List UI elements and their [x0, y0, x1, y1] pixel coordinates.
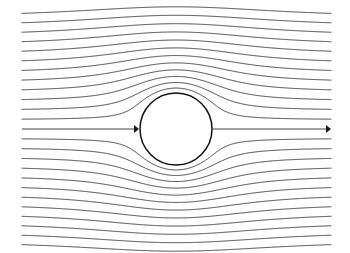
streamline-upper-5 [22, 63, 331, 80]
streamline-lower-4 [22, 168, 331, 188]
flow-diagram-figure [0, 0, 350, 253]
streamline-lower-5 [22, 178, 331, 195]
cylinder-outline [140, 93, 212, 165]
streamline-upper-7 [22, 48, 331, 61]
streamline-lower-12 [22, 245, 331, 252]
streamline-upper-4 [22, 70, 331, 90]
streamline-lower-10 [22, 226, 331, 235]
streamline-upper-10 [22, 24, 331, 33]
streamline-upper-8 [22, 40, 331, 51]
upstream-flow-arrow [22, 125, 139, 133]
streamline-lower-8 [22, 207, 331, 218]
downstream-flow-arrow [213, 125, 331, 133]
streamline-lower-7 [22, 197, 331, 210]
streamline-lower-11 [22, 235, 331, 243]
streamline-upper-11 [22, 15, 331, 22]
streamline-upper-12 [22, 7, 331, 14]
streamline-canvas [0, 0, 350, 253]
